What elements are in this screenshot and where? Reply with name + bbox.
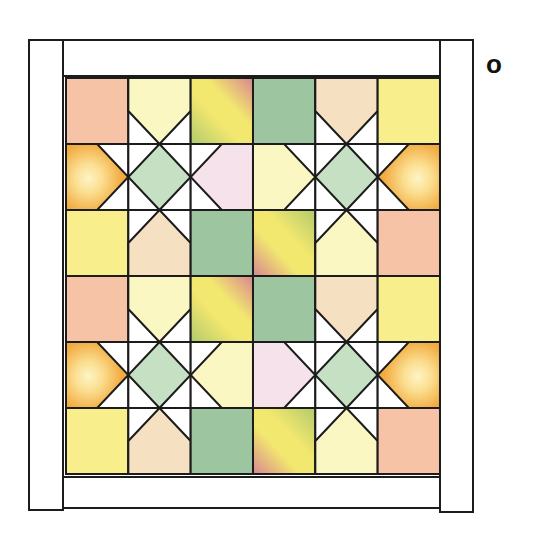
cell-r0c3-square xyxy=(253,78,315,144)
cell-r5c0-square xyxy=(66,408,128,474)
cell-r2c3-gradient-square xyxy=(253,210,315,276)
border-strip-top xyxy=(63,40,440,76)
border-strip-left xyxy=(29,40,63,510)
cell-r3c0-square xyxy=(66,276,128,342)
quilt-diagram xyxy=(0,0,534,540)
border-strip-right xyxy=(440,40,473,512)
cell-r2c0-square xyxy=(66,210,128,276)
cell-r2c2-square xyxy=(191,210,253,276)
border-strip-bottom xyxy=(63,477,440,508)
cell-r3c3-square xyxy=(253,276,315,342)
cell-r5c2-square xyxy=(191,408,253,474)
cell-r0c5-square xyxy=(378,78,440,144)
cell-r3c2-gradient-square xyxy=(191,276,253,342)
cell-r3c5-square xyxy=(378,276,440,342)
cell-r5c5-square xyxy=(378,408,440,474)
cell-r2c5-square xyxy=(378,210,440,276)
quilt-pattern-figure: o xyxy=(0,0,534,540)
figure-label: o xyxy=(486,51,502,77)
cell-r5c3-gradient-square xyxy=(253,408,315,474)
cell-r0c2-gradient-square xyxy=(191,78,253,144)
cell-r0c0-square xyxy=(66,78,128,144)
